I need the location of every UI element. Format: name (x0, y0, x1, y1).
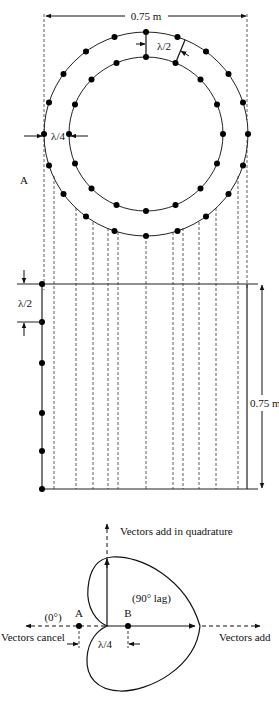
linear-array-figure: λ/2 0.75 m (17, 270, 279, 492)
radial-spacing-label: λ/2 (157, 40, 171, 52)
outer-ring (44, 32, 248, 236)
spacing-label: λ/4 (98, 638, 112, 650)
height-label: 0.75 m (250, 397, 279, 409)
point-b-label: B (124, 607, 131, 619)
radial-spacing-line-2 (176, 40, 186, 63)
radial-spacing-arrow-2 (181, 51, 189, 56)
add-label: Vectors add (219, 631, 271, 643)
quadrature-label: Vectors add in quadrature (120, 525, 233, 537)
antenna-array-diagram: 0.75 m (0, 0, 279, 708)
point-a-label: A (75, 607, 83, 619)
width-label: 0.75 m (131, 10, 162, 22)
inner-ring-elements (66, 54, 226, 214)
cardioid-pattern (87, 557, 200, 691)
outer-ring-elements (41, 29, 251, 239)
cardioid-figure: λ/4 Vectors add in quadrature (90° lag) … (1, 524, 271, 691)
spacing-label: λ/2 (18, 297, 32, 309)
cancel-label: Vectors cancel (1, 631, 65, 643)
projection-lines (54, 140, 247, 489)
point-a-label: A (20, 174, 28, 186)
ring-gap-label: λ/4 (51, 130, 65, 142)
phase-b-label: (90° lag) (132, 592, 171, 605)
phase-a-label: (0°) (44, 611, 62, 624)
